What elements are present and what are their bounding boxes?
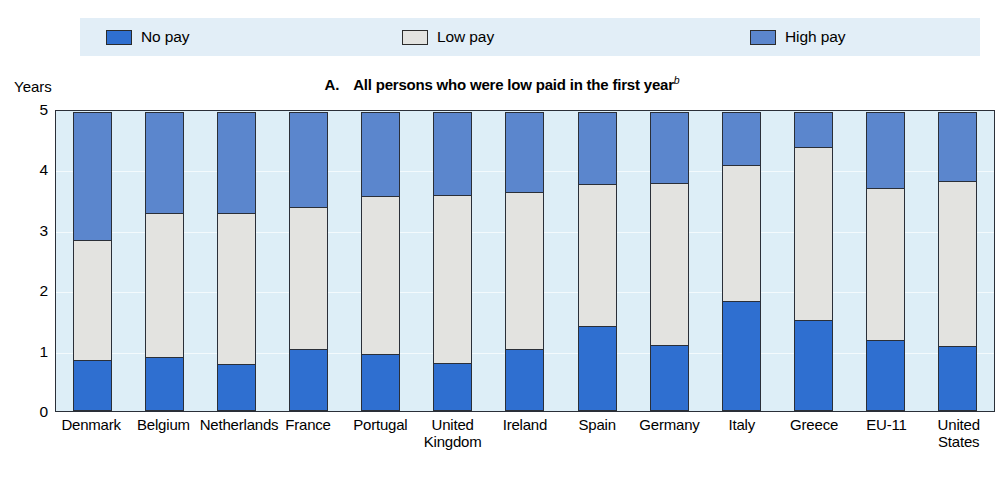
bar-segment-low-pay[interactable] (217, 213, 256, 365)
bar-segment-high-pay[interactable] (722, 112, 761, 166)
x-tick-label: Ireland (489, 416, 561, 433)
stacked-bar[interactable] (361, 111, 400, 411)
x-tick-label: Netherlands (200, 416, 272, 433)
legend-swatch-no-pay (106, 30, 132, 45)
bar-segment-low-pay[interactable] (650, 183, 689, 346)
stacked-bar[interactable] (866, 111, 905, 411)
bar-segment-low-pay[interactable] (578, 184, 617, 328)
y-tick-label: 5 (2, 102, 48, 118)
stacked-bar[interactable] (145, 111, 184, 411)
x-tick-label: Greece (778, 416, 850, 433)
bar-segment-low-pay[interactable] (73, 240, 112, 361)
bar-segment-low-pay[interactable] (361, 196, 400, 355)
x-tick-label: Belgium (127, 416, 199, 433)
stacked-bar[interactable] (650, 111, 689, 411)
stacked-bar[interactable] (938, 111, 977, 411)
bar-segment-no-pay[interactable] (938, 346, 977, 411)
x-tick-label-line: Belgium (137, 416, 190, 433)
legend-item-no-pay: No pay (106, 29, 190, 45)
bar-segment-high-pay[interactable] (289, 112, 328, 209)
legend-swatch-low-pay (402, 30, 428, 45)
stacked-bar[interactable] (289, 111, 328, 411)
bar-segment-no-pay[interactable] (578, 326, 617, 411)
x-tick-label: Italy (706, 416, 778, 433)
bar-segment-high-pay[interactable] (650, 112, 689, 184)
stacked-bar[interactable] (433, 111, 472, 411)
x-tick-label-line: Kingdom (417, 433, 489, 450)
bar-segment-high-pay[interactable] (433, 112, 472, 197)
y-tick-label: 1 (2, 344, 48, 360)
bar-segment-no-pay[interactable] (505, 349, 544, 411)
legend-swatch-high-pay (750, 30, 776, 45)
x-tick-label: EU-11 (850, 416, 922, 433)
y-tick-label: 3 (2, 223, 48, 239)
stacked-bar[interactable] (578, 111, 617, 411)
bar-segment-no-pay[interactable] (433, 363, 472, 411)
x-tick-label-line: Spain (579, 416, 616, 433)
x-tick-label-line: United (938, 416, 980, 433)
legend-label-no-pay: No pay (141, 29, 190, 45)
bar-segment-high-pay[interactable] (505, 112, 544, 194)
x-tick-label: France (272, 416, 344, 433)
bar-segment-no-pay[interactable] (722, 301, 761, 411)
x-tick-label-line: Ireland (503, 416, 547, 433)
bar-segment-no-pay[interactable] (145, 357, 184, 411)
bar-segment-low-pay[interactable] (505, 192, 544, 351)
legend-item-high-pay: High pay (750, 29, 845, 45)
y-tick-label: 4 (2, 163, 48, 179)
stacked-bar[interactable] (722, 111, 761, 411)
bar-segment-no-pay[interactable] (361, 354, 400, 411)
x-tick-label-line: Greece (790, 416, 838, 433)
y-tick-label: 2 (2, 283, 48, 299)
legend-label-low-pay: Low pay (437, 29, 494, 45)
bar-segment-no-pay[interactable] (794, 320, 833, 411)
bar-segment-no-pay[interactable] (217, 364, 256, 411)
x-tick-label: Germany (634, 416, 706, 433)
x-tick-label: UnitedKingdom (417, 416, 489, 451)
x-tick-label: Spain (561, 416, 633, 433)
bar-segment-high-pay[interactable] (361, 112, 400, 198)
bar-group (56, 111, 994, 411)
bar-segment-low-pay[interactable] (145, 213, 184, 358)
x-tick-label-line: Netherlands (200, 416, 279, 433)
legend-label-high-pay: High pay (785, 29, 845, 45)
stacked-bar[interactable] (73, 111, 112, 411)
plot-area (55, 110, 995, 412)
bar-segment-high-pay[interactable] (794, 112, 833, 148)
x-tick-label-line: Germany (639, 416, 699, 433)
bar-segment-low-pay[interactable] (794, 147, 833, 322)
bar-segment-no-pay[interactable] (866, 340, 905, 411)
x-tick-label: Denmark (55, 416, 127, 433)
panel-title-text: All persons who were low paid in the fir… (353, 76, 674, 93)
bar-segment-high-pay[interactable] (938, 112, 977, 183)
stacked-bar[interactable] (505, 111, 544, 411)
x-tick-label: Portugal (344, 416, 416, 433)
bar-segment-no-pay[interactable] (289, 349, 328, 411)
footnote-marker: b (674, 74, 680, 86)
x-tick-label-line: Portugal (353, 416, 407, 433)
x-tick-label-line: France (285, 416, 331, 433)
bar-segment-no-pay[interactable] (650, 345, 689, 411)
x-tick-label-line: Italy (729, 416, 756, 433)
bar-segment-high-pay[interactable] (578, 112, 617, 186)
stacked-bar[interactable] (794, 111, 833, 411)
bar-segment-high-pay[interactable] (217, 112, 256, 215)
bar-segment-low-pay[interactable] (289, 207, 328, 351)
bar-segment-high-pay[interactable] (866, 112, 905, 189)
bar-segment-low-pay[interactable] (938, 181, 977, 347)
x-tick-label: UnitedStates (923, 416, 995, 451)
bar-segment-low-pay[interactable] (866, 188, 905, 341)
stacked-bar[interactable] (217, 111, 256, 411)
x-tick-label-line: Denmark (61, 416, 120, 433)
panel-title: A.All persons who were low paid in the f… (0, 74, 1004, 93)
bar-segment-no-pay[interactable] (73, 360, 112, 411)
legend-item-low-pay: Low pay (402, 29, 494, 45)
x-tick-label-line: United (432, 416, 474, 433)
bar-segment-low-pay[interactable] (433, 195, 472, 364)
bar-segment-high-pay[interactable] (73, 112, 112, 242)
chart-legend: No pay Low pay High pay (80, 18, 980, 56)
bar-segment-low-pay[interactable] (722, 165, 761, 303)
y-axis: 012345 (0, 110, 48, 412)
y-tick-label: 0 (2, 404, 48, 420)
bar-segment-high-pay[interactable] (145, 112, 184, 215)
